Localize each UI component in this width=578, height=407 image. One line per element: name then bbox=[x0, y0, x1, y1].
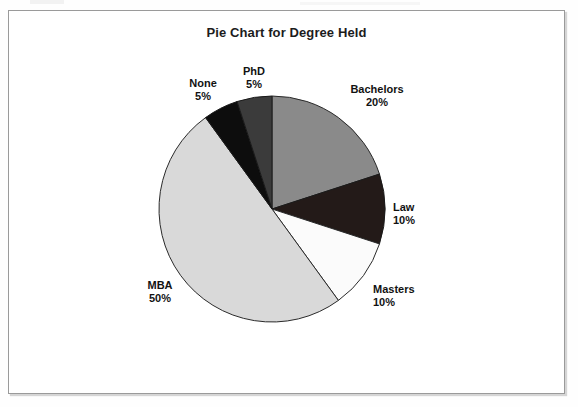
slice-label-phd-percent: 5% bbox=[232, 78, 276, 91]
slice-label-masters: Masters 10% bbox=[373, 283, 447, 309]
page-background: Pie Chart for Degree Held Bachelors 20% … bbox=[0, 0, 578, 407]
pie-chart bbox=[9, 11, 566, 395]
slice-label-none: None 5% bbox=[175, 77, 231, 103]
slice-label-law: Law 10% bbox=[393, 201, 453, 227]
slice-label-phd-name: PhD bbox=[232, 65, 276, 78]
slice-label-masters-percent: 10% bbox=[373, 296, 447, 309]
slice-label-none-name: None bbox=[175, 77, 231, 90]
slice-label-mba-name: MBA bbox=[127, 279, 193, 292]
slice-label-bachelors: Bachelors 20% bbox=[331, 83, 423, 109]
slice-label-bachelors-percent: 20% bbox=[331, 96, 423, 109]
scan-artifact-top-left bbox=[30, 0, 64, 4]
slice-label-bachelors-name: Bachelors bbox=[331, 83, 423, 96]
slice-label-law-percent: 10% bbox=[393, 214, 453, 227]
slice-label-mba-percent: 50% bbox=[127, 292, 193, 305]
slice-label-phd: PhD 5% bbox=[232, 65, 276, 91]
scan-artifact-top-right bbox=[300, 2, 420, 5]
slice-label-masters-name: Masters bbox=[373, 283, 447, 296]
chart-frame: Pie Chart for Degree Held Bachelors 20% … bbox=[8, 10, 565, 394]
slice-label-law-name: Law bbox=[393, 201, 453, 214]
slice-label-none-percent: 5% bbox=[175, 90, 231, 103]
slice-label-mba: MBA 50% bbox=[127, 279, 193, 305]
